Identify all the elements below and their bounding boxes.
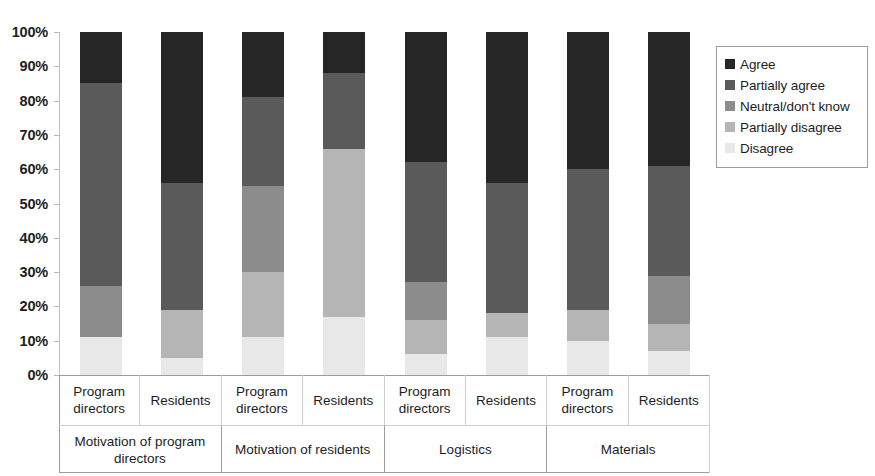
bar-segment	[80, 83, 122, 285]
y-axis-tick-label: 50%	[20, 196, 48, 212]
bar	[486, 32, 528, 375]
y-axis-tick-label: 10%	[20, 333, 48, 349]
legend-item-label: Partially agree	[740, 78, 825, 93]
category-bar-label: Program directors	[547, 375, 628, 425]
y-axis-tick-label: 20%	[20, 298, 48, 314]
category-bar-label: Program directors	[222, 375, 303, 425]
bar-segment	[161, 310, 203, 358]
bar-segment	[567, 32, 609, 169]
y-axis-tick-label: 0%	[27, 367, 48, 383]
bar-segment	[567, 341, 609, 375]
bar-segment	[323, 73, 365, 148]
bar-segment	[80, 337, 122, 375]
bar-segment	[405, 320, 447, 354]
bar-segment	[405, 354, 447, 375]
bar-segment	[486, 32, 528, 183]
legend-swatch-icon	[725, 143, 735, 153]
legend-swatch-icon	[725, 59, 735, 69]
bar-segment	[648, 32, 690, 166]
bar-segment	[80, 32, 122, 83]
category-group-label: Materials	[547, 425, 710, 473]
plot-area	[60, 32, 710, 375]
bar-segment	[648, 166, 690, 276]
bar-segment	[323, 317, 365, 375]
bar-segment	[405, 162, 447, 282]
bar-segment	[323, 149, 365, 317]
bar	[80, 32, 122, 375]
y-axis-tick-label: 60%	[20, 161, 48, 177]
bar	[405, 32, 447, 375]
y-axis-tick-label: 70%	[20, 127, 48, 143]
category-bar-label: Residents	[303, 375, 384, 425]
bar-segment	[242, 337, 284, 375]
legend-item: Agree	[725, 54, 861, 74]
bar-segment	[242, 272, 284, 337]
y-axis-tick-label: 90%	[20, 58, 48, 74]
bar-segment	[161, 183, 203, 310]
legend-swatch-icon	[725, 80, 735, 90]
bar	[323, 32, 365, 375]
y-axis-tick-label: 40%	[20, 230, 48, 246]
category-bar-label: Residents	[466, 375, 547, 425]
bar-segment	[405, 32, 447, 162]
bar-segment	[80, 286, 122, 337]
bar-segment	[161, 358, 203, 375]
legend-item-label: Agree	[740, 57, 776, 72]
legend-swatch-icon	[725, 101, 735, 111]
bar-segment	[486, 313, 528, 337]
bar-segment	[648, 276, 690, 324]
bar-segment	[567, 169, 609, 310]
legend-item-label: Disagree	[740, 141, 793, 156]
bar	[242, 32, 284, 375]
category-group-label: Logistics	[385, 425, 548, 473]
category-group-label: Motivation of program directors	[59, 425, 222, 473]
category-bar-label: Program directors	[385, 375, 466, 425]
bar-segment	[323, 32, 365, 73]
bar-segment	[405, 282, 447, 320]
bar-segment	[486, 337, 528, 375]
bar	[161, 32, 203, 375]
bar-segment	[648, 324, 690, 351]
chart-legend: AgreePartially agreeNeutral/don't knowPa…	[716, 46, 868, 168]
stacked-bar-chart: 100%90%80%70%60%50%40%30%20%10%0% Progra…	[0, 0, 875, 476]
category-bar-label: Residents	[629, 375, 710, 425]
bar-segment	[242, 186, 284, 272]
bar	[567, 32, 609, 375]
legend-item: Disagree	[725, 138, 861, 158]
y-axis-tick-label: 80%	[20, 93, 48, 109]
category-bar-label: Residents	[140, 375, 221, 425]
bar-segment	[242, 32, 284, 97]
legend-swatch-icon	[725, 122, 735, 132]
y-axis-tick-label: 100%	[12, 24, 48, 40]
legend-item: Partially disagree	[725, 117, 861, 137]
bar-segment	[648, 351, 690, 375]
bar-segment	[567, 310, 609, 341]
bar	[648, 32, 690, 375]
legend-item: Neutral/don't know	[725, 96, 861, 116]
bar-segment	[161, 32, 203, 183]
bar-segment	[486, 183, 528, 313]
legend-item-label: Partially disagree	[740, 120, 842, 135]
category-axis: Program directorsResidentsProgram direct…	[59, 375, 710, 473]
category-axis-group-labels: Motivation of program directorsMotivatio…	[59, 425, 710, 473]
y-axis-tick-label: 30%	[20, 264, 48, 280]
y-axis: 100%90%80%70%60%50%40%30%20%10%0%	[0, 32, 54, 375]
legend-item-label: Neutral/don't know	[740, 99, 850, 114]
legend-item: Partially agree	[725, 75, 861, 95]
category-axis-bar-labels: Program directorsResidentsProgram direct…	[59, 375, 710, 425]
category-group-label: Motivation of residents	[222, 425, 385, 473]
bar-segment	[242, 97, 284, 186]
category-bar-label: Program directors	[59, 375, 140, 425]
